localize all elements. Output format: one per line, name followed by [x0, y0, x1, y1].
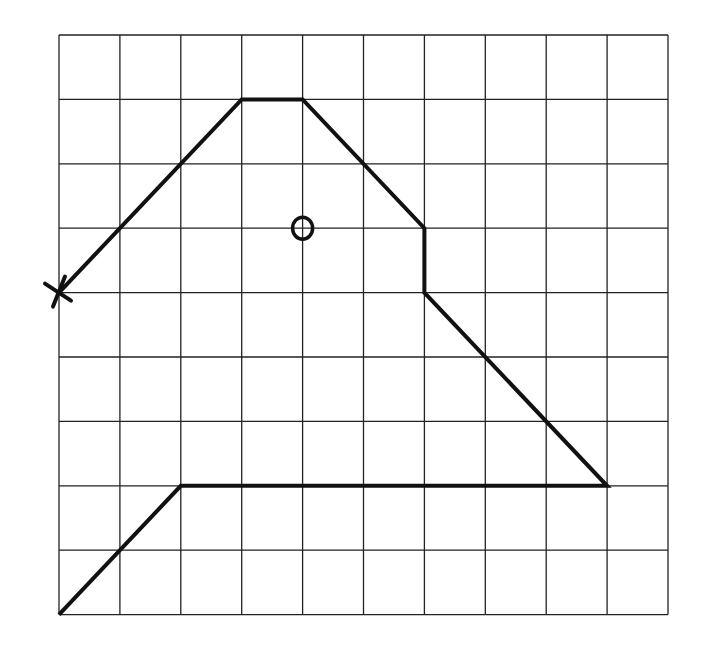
grid-lines	[59, 35, 668, 615]
grid-diagram	[0, 0, 701, 649]
cross-marker-icon	[45, 277, 71, 307]
